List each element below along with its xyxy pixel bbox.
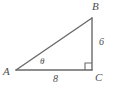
right-angle-marker-icon [85,63,92,70]
hypotenuse-line [16,18,92,70]
vertex-label-b: B [92,1,99,12]
side-length-label-vertical: 6 [99,37,104,47]
side-length-label-horizontal: 8 [53,74,58,84]
angle-label-theta: θ [40,57,44,66]
vertex-label-a: A [3,66,10,77]
vertex-label-c: C [95,72,102,83]
right-triangle-figure: A B C 6 8 θ [0,0,116,93]
